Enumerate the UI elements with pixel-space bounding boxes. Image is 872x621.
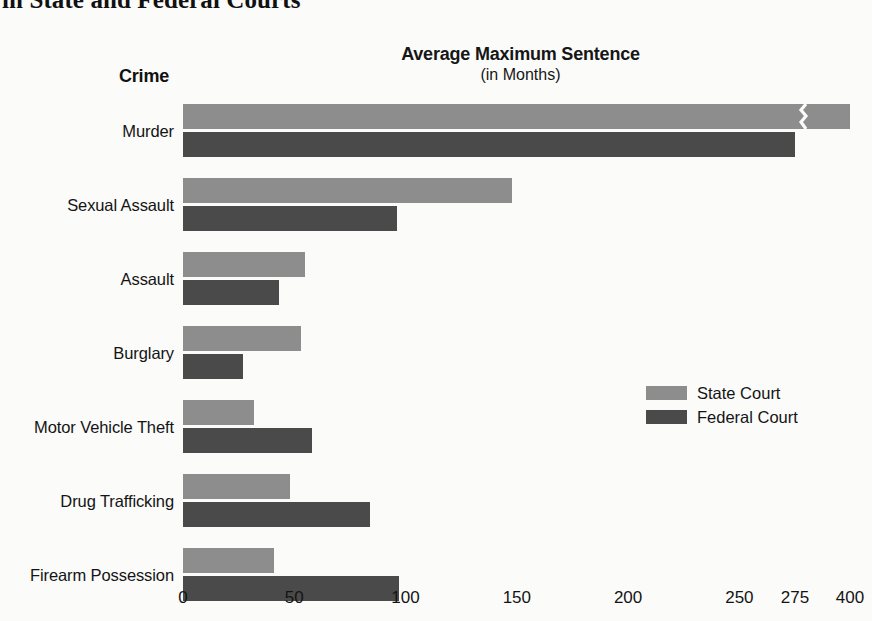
bar-state-firearm-possession — [183, 548, 274, 573]
chart-row: Burglary — [183, 326, 872, 379]
x-tick-275: 275 — [781, 588, 809, 608]
legend-label-federal: Federal Court — [697, 408, 798, 427]
x-tick-150: 150 — [503, 588, 531, 608]
article-headline: in State and Federal Courts — [2, 0, 301, 14]
bar-state-sexual-assault — [183, 178, 512, 203]
bar-state-assault — [183, 252, 305, 277]
crime-column-header: Crime — [119, 66, 169, 87]
chart-page: in State and Federal Courts Average Maxi… — [0, 0, 872, 621]
chart-subtitle: (in Months) — [183, 66, 858, 84]
x-tick-100: 100 — [391, 588, 419, 608]
bar-state-murder — [183, 104, 850, 129]
x-tick-400: 400 — [836, 588, 864, 608]
category-label-drug-trafficking: Drug Trafficking — [60, 491, 174, 510]
bar-federal-burglary — [183, 354, 243, 379]
chart-row: Drug Trafficking — [183, 474, 872, 527]
category-label-assault: Assault — [121, 269, 174, 288]
legend-label-state: State Court — [697, 384, 780, 403]
category-label-murder: Murder — [122, 121, 174, 140]
bar-federal-murder — [183, 132, 795, 157]
x-axis: 050100150200250275400 — [183, 588, 872, 612]
bar-state-burglary — [183, 326, 301, 351]
category-label-firearm-possession: Firearm Possession — [30, 565, 174, 584]
chart-row: Assault — [183, 252, 872, 305]
category-label-sexual-assault: Sexual Assault — [67, 195, 174, 214]
category-label-burglary: Burglary — [113, 343, 174, 362]
bar-federal-sexual-assault — [183, 206, 397, 231]
plot-area: MurderSexual AssaultAssaultBurglaryMotor… — [183, 104, 872, 582]
x-tick-200: 200 — [614, 588, 642, 608]
category-label-motor-vehicle-theft: Motor Vehicle Theft — [34, 417, 174, 436]
legend-item-state[interactable]: State Court — [646, 381, 798, 405]
chart-legend: State CourtFederal Court — [646, 381, 798, 429]
x-tick-0: 0 — [178, 588, 187, 608]
bar-federal-drug-trafficking — [183, 502, 370, 527]
legend-swatch-state — [646, 386, 687, 400]
chart-row: Murder — [183, 104, 872, 157]
bar-state-drug-trafficking — [183, 474, 290, 499]
bar-federal-assault — [183, 280, 279, 305]
bar-state-motor-vehicle-theft — [183, 400, 254, 425]
chart-title: Average Maximum Sentence — [183, 44, 858, 65]
x-tick-250: 250 — [725, 588, 753, 608]
bar-federal-motor-vehicle-theft — [183, 428, 312, 453]
legend-swatch-federal — [646, 410, 687, 424]
x-tick-50: 50 — [285, 588, 304, 608]
legend-item-federal[interactable]: Federal Court — [646, 405, 798, 429]
chart-row: Sexual Assault — [183, 178, 872, 231]
